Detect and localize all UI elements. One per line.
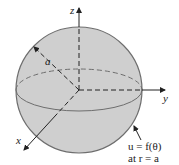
annotation-line2: at r = a <box>128 152 159 164</box>
sphere-diagram: z y x a u = f(θ) at r = a <box>0 0 179 165</box>
annotation-pointer <box>134 126 141 140</box>
y-axis-label: y <box>162 92 168 104</box>
x-axis-label: x <box>15 134 21 146</box>
radius-label: a <box>45 55 51 67</box>
z-axis-label: z <box>69 4 75 16</box>
